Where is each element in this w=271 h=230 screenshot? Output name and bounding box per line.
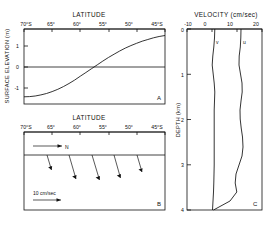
panel-a-xtick-3: 55° — [99, 21, 107, 27]
panel-a-xtick-0: 70°S — [20, 21, 32, 27]
panel-b-xtick-1: 65° — [47, 124, 55, 130]
panel-c: VELOCITY (cm/sec) -10 0 10 20 DEPTH (km)… — [175, 11, 262, 213]
panel-a-title: LATITUDE — [72, 11, 105, 18]
figure-container: LATITUDE 70°S 65° 60° 55° 50° 45°S SURFA… — [0, 0, 271, 230]
panel-a-xtick-5: 45°S — [151, 21, 163, 27]
panel-c-ytick-2: 2 — [181, 117, 184, 123]
velocity-vectors — [47, 155, 143, 180]
panel-a-label: A — [157, 95, 161, 101]
north-arrow: N — [33, 144, 69, 150]
panel-a-ytick-2: -1 — [14, 85, 19, 91]
panel-b: LATITUDE 70°S 65° 60° 55° 50° 45°S N — [20, 114, 165, 210]
panel-c-label: C — [253, 201, 258, 207]
panel-b-xtick-0: 70°S — [20, 124, 32, 130]
panel-a-ytick-1: 0 — [16, 64, 19, 70]
panel-a-xtick-2: 60° — [73, 21, 81, 27]
figure-svg: LATITUDE 70°S 65° 60° 55° 50° 45°S SURFA… — [0, 0, 271, 230]
panel-c-label-u: u — [243, 39, 246, 45]
panel-c-ytick-3: 3 — [181, 162, 184, 168]
panel-b-title: LATITUDE — [72, 114, 105, 121]
panel-b-label: B — [157, 201, 161, 207]
panel-a-xtick-1: 65° — [47, 21, 55, 27]
panel-c-label-v: v — [216, 39, 219, 45]
vector-3 — [114, 155, 121, 178]
panel-c-curve-v — [212, 29, 215, 210]
vector-4 — [137, 155, 143, 172]
vector-1 — [69, 155, 77, 179]
panel-a: LATITUDE 70°S 65° 60° 55° 50° 45°S SURFA… — [4, 11, 165, 104]
panel-c-curve-u — [214, 29, 244, 210]
panel-b-xtick-4: 50° — [125, 124, 133, 130]
panel-a-xtick-4: 50° — [125, 21, 133, 27]
panel-c-ytick-1: 1 — [181, 72, 184, 78]
vector-2 — [92, 155, 100, 180]
panel-c-ytick-0: 0 — [181, 27, 184, 33]
panel-c-xtick-2: 10 — [227, 21, 233, 27]
panel-c-xtick-1: 0 — [204, 21, 207, 27]
panel-c-xtick-3: 20 — [253, 21, 259, 27]
panel-c-ylabel: DEPTH (km) — [175, 103, 181, 138]
scale-bar: 10 cm/sec — [33, 190, 61, 202]
panel-b-xtick-5: 45°S — [151, 124, 163, 130]
panel-a-curve-elevation — [24, 36, 165, 97]
scale-bar-label: 10 cm/sec — [33, 190, 56, 196]
vector-0 — [47, 155, 52, 170]
panel-a-ytick-0: 1 — [16, 43, 19, 49]
panel-b-xtick-3: 55° — [99, 124, 107, 130]
north-arrow-label: N — [65, 144, 69, 150]
panel-c-xtick-0: -10 — [184, 21, 192, 27]
panel-c-ytick-4: 4 — [181, 207, 184, 213]
panel-a-ylabel: SURFACE ELEVATION (m) — [4, 29, 10, 104]
panel-b-xtick-2: 60° — [73, 124, 81, 130]
panel-c-title: VELOCITY (cm/sec) — [194, 11, 258, 19]
